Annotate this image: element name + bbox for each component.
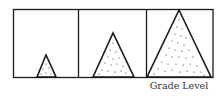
panel-3-large-triangle: [147, 10, 211, 77]
grade-level-label: Grade Level: [147, 80, 211, 91]
panel-1-small-triangle: [37, 55, 56, 77]
stipple-dots: [98, 42, 126, 74]
panel-2-medium-triangle: [93, 33, 134, 77]
